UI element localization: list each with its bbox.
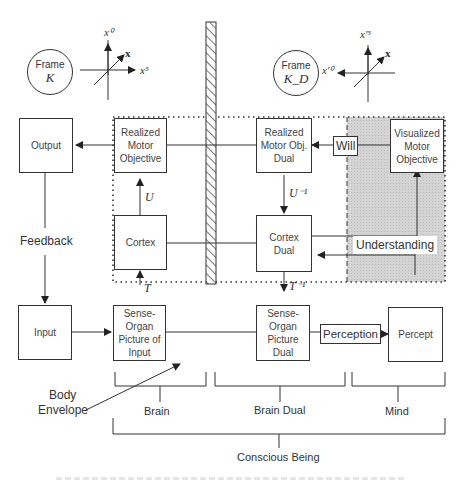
axis-x-label: x (125, 47, 131, 59)
t-inverse-label: T⁻¹ (289, 279, 305, 294)
frame-kd-circle: Frame K_D (273, 50, 319, 96)
frame-label: Frame (28, 59, 72, 70)
axis-x5-label: x⁵ (140, 64, 149, 76)
realized-motor-obj-dual-box: Realized Motor Obj. Dual (256, 118, 312, 173)
sense-organ-picture-dual-box: Sense- Organ Picture Dual (256, 305, 310, 361)
u-label: U (145, 190, 154, 205)
will-label: Will (333, 136, 358, 156)
axis-x0-label: x⁰ (104, 26, 113, 39)
output-box: Output (19, 118, 73, 173)
cortex-box: Cortex (114, 215, 167, 270)
understanding-label: Understanding (353, 236, 437, 254)
feedback-label: Feedback (20, 234, 73, 248)
realized-motor-objective-box: Realized Motor Objective (114, 118, 167, 173)
frame-symbol: K (28, 70, 72, 86)
visualized-motor-objective-box: Visualized Motor Objective (390, 119, 444, 173)
frame-label: Frame (274, 60, 318, 71)
body-envelope-label-line1: Body (49, 388, 76, 402)
percept-box: Percept (388, 307, 443, 362)
u-inverse-label: U⁻¹ (289, 186, 307, 201)
diagram-canvas: Frame K x⁰ x⁵ x Frame K_D x'⁵ x'⁰ x Outp… (0, 0, 463, 480)
body-envelope-label-line2: Envelope (38, 403, 88, 417)
input-box: Input (18, 305, 72, 360)
axis-x-label: x (385, 47, 391, 59)
mind-group-label: Mind (385, 405, 409, 417)
perception-label: Perception (320, 324, 381, 344)
conscious-being-group-label: Conscious Being (237, 451, 320, 463)
frame-k-circle: Frame K (27, 49, 73, 95)
cortex-dual-box: Cortex Dual (256, 215, 312, 272)
frame-symbol: K_D (274, 71, 318, 87)
axis-x0prime-label: x'⁰ (322, 64, 333, 77)
axis-x5prime-label: x'⁵ (360, 28, 371, 40)
brain-dual-group-label: Brain Dual (254, 404, 305, 416)
t-label: T (144, 281, 151, 296)
brain-group-label: Brain (144, 405, 170, 417)
sense-organ-picture-of-input-box: Sense- Organ Picture of Input (113, 305, 166, 361)
